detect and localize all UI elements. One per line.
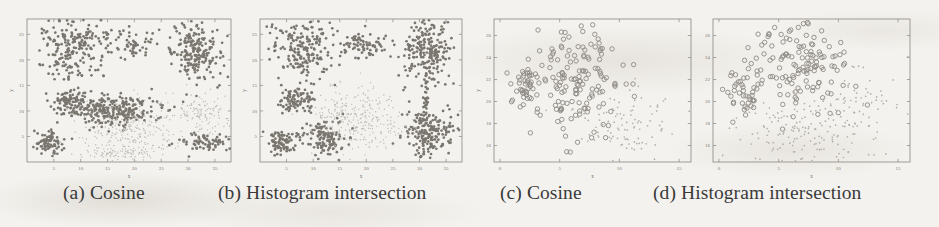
svg-text:25: 25 <box>252 32 258 37</box>
svg-text:10: 10 <box>836 166 842 171</box>
subcaption-d: (d) Histogram intersection <box>653 182 861 204</box>
svg-text:x: x <box>360 173 363 179</box>
svg-text:5: 5 <box>255 134 258 139</box>
svg-text:35: 35 <box>444 166 450 171</box>
svg-text:5: 5 <box>285 166 288 171</box>
svg-text:5: 5 <box>22 134 25 139</box>
svg-text:22: 22 <box>705 77 711 82</box>
svg-text:15: 15 <box>896 166 902 171</box>
svg-text:5: 5 <box>558 166 561 171</box>
svg-text:20: 20 <box>364 166 370 171</box>
svg-text:25: 25 <box>19 32 25 37</box>
svg-text:y: y <box>475 89 481 92</box>
scatter-plot-a: 5101520253035510152025xy <box>0 0 240 180</box>
figure-panel-row: 5101520253035510152025xy 510152025303551… <box>0 0 939 180</box>
subcaption-row: (a) Cosine (b) Histogram intersection (c… <box>0 180 939 227</box>
svg-text:24: 24 <box>486 55 492 60</box>
scatter-panel-c: 051015161820222426xy <box>472 0 700 180</box>
svg-text:10: 10 <box>19 109 25 114</box>
svg-text:18: 18 <box>486 121 492 126</box>
svg-text:15: 15 <box>337 166 343 171</box>
svg-text:18: 18 <box>705 121 711 126</box>
svg-text:30: 30 <box>186 166 192 171</box>
svg-text:30: 30 <box>417 166 423 171</box>
svg-text:24: 24 <box>705 55 711 60</box>
svg-text:25: 25 <box>159 166 165 171</box>
svg-text:x: x <box>810 173 813 179</box>
svg-text:10: 10 <box>78 166 84 171</box>
svg-text:10: 10 <box>252 109 258 114</box>
svg-text:5: 5 <box>53 166 56 171</box>
scatter-plot-c: 051015161820222426xy <box>472 0 700 180</box>
svg-text:x: x <box>591 173 594 179</box>
scatter-panel-d: 051015161820222426xy <box>700 0 939 180</box>
svg-text:25: 25 <box>390 166 396 171</box>
svg-text:15: 15 <box>677 166 683 171</box>
svg-text:20: 20 <box>486 99 492 104</box>
subcaption-b: (b) Histogram intersection <box>218 182 426 204</box>
svg-text:0: 0 <box>718 166 721 171</box>
svg-text:5: 5 <box>777 166 780 171</box>
svg-text:26: 26 <box>486 33 492 38</box>
svg-text:16: 16 <box>486 143 492 148</box>
subcaption-a: (a) Cosine <box>63 182 145 204</box>
svg-text:10: 10 <box>311 166 317 171</box>
svg-text:15: 15 <box>19 83 25 88</box>
scatter-panel-a: 5101520253035510152025xy <box>0 0 240 180</box>
svg-text:15: 15 <box>252 83 258 88</box>
svg-text:y: y <box>8 89 14 92</box>
svg-text:16: 16 <box>705 143 711 148</box>
svg-text:20: 20 <box>705 99 711 104</box>
scatter-plot-d: 051015161820222426xy <box>700 0 939 180</box>
svg-text:26: 26 <box>705 33 711 38</box>
svg-text:10: 10 <box>617 166 623 171</box>
svg-text:22: 22 <box>486 77 492 82</box>
svg-text:x: x <box>128 173 131 179</box>
svg-text:35: 35 <box>212 166 218 171</box>
subcaption-c: (c) Cosine <box>500 182 582 204</box>
scatter-plot-b: 5101520253035510152025xy <box>240 0 472 180</box>
svg-text:0: 0 <box>499 166 502 171</box>
svg-text:20: 20 <box>132 166 138 171</box>
svg-text:20: 20 <box>252 58 258 63</box>
svg-text:y: y <box>241 89 247 92</box>
scatter-panel-b: 5101520253035510152025xy <box>240 0 472 180</box>
svg-text:20: 20 <box>19 58 25 63</box>
svg-text:15: 15 <box>105 166 111 171</box>
